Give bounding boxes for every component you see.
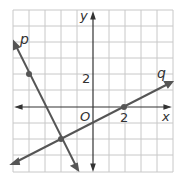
x-axis-label: x bbox=[161, 109, 170, 124]
point-on-p bbox=[26, 71, 32, 77]
line-p bbox=[14, 42, 78, 170]
y-axis-label: y bbox=[79, 8, 88, 23]
line-q-label: q bbox=[157, 65, 166, 81]
y-axis-up-arrow-icon bbox=[91, 13, 95, 19]
x-tick-label: 2 bbox=[120, 110, 128, 125]
origin-label: O bbox=[80, 109, 90, 124]
x-axis-left-arrow-icon bbox=[16, 105, 22, 109]
y-axis-down-arrow-icon bbox=[91, 164, 95, 170]
coordinate-graph: y x O 2 2 p q bbox=[0, 0, 179, 182]
line-p-label: p bbox=[19, 31, 29, 47]
y-tick-label: 2 bbox=[82, 71, 90, 86]
intersection-point bbox=[58, 136, 64, 142]
